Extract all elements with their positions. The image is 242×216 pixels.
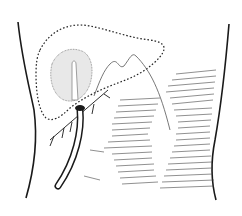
illustration-canvas xyxy=(0,0,242,216)
gallbladder xyxy=(51,49,92,101)
anatomical-illustration xyxy=(0,0,242,216)
body-outline-left xyxy=(18,22,36,198)
body-outline-right xyxy=(212,24,229,200)
hatched-tissue xyxy=(84,70,216,188)
drainage-tube xyxy=(58,105,85,186)
